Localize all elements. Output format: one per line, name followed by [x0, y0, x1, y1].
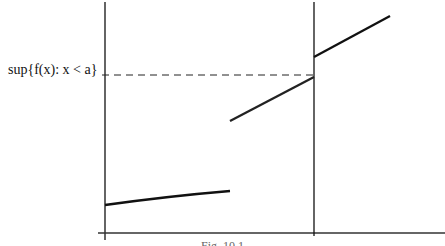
lower-curve [105, 191, 230, 205]
upper-line [314, 16, 390, 57]
middle-line [230, 77, 314, 121]
figure-caption: Fig. 10.1 [0, 239, 445, 246]
sup-label: sup{f(x): x < a} [8, 62, 97, 78]
discontinuity-diagram [0, 0, 445, 246]
figure-canvas: sup{f(x): x < a} Fig. 10.1 [0, 0, 445, 246]
